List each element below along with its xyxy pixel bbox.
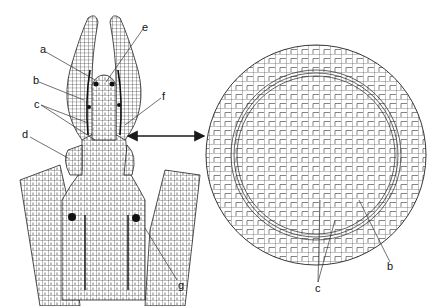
label-b-right: b [387,261,393,272]
label-c-right: c [315,283,321,294]
label-f: f [162,91,165,102]
label-a: a [40,44,46,55]
label-g: g [178,280,184,291]
transverse-section [206,45,426,282]
label-d: d [22,129,28,140]
diagram-canvas [0,0,429,306]
label-e: e [142,22,148,33]
longitudinal-section [20,16,200,306]
label-b: b [33,75,39,86]
label-c: c [34,99,40,110]
